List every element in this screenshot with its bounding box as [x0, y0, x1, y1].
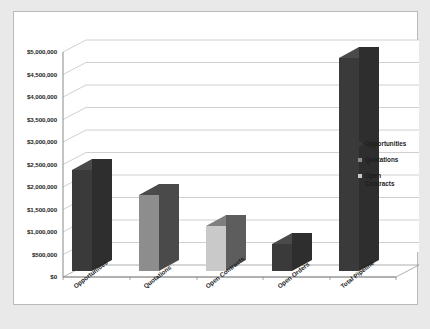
- y-tick-label: $4,000,000: [9, 93, 57, 100]
- y-tick-label: $2,000,000: [9, 183, 57, 190]
- legend-item-open-contracts[interactable]: Open Contracts: [358, 172, 420, 188]
- y-tick-label: $2,500,000: [9, 161, 57, 168]
- legend-label-opportunities: Opportunities: [365, 140, 406, 148]
- y-tick-label: $500,000: [9, 251, 57, 258]
- bar-opportunities: [72, 159, 112, 271]
- y-tick-label: $1,500,000: [9, 206, 57, 213]
- legend-marker-open-contracts: [358, 174, 362, 178]
- y-tick-label: $1,000,000: [9, 228, 57, 235]
- y-tick-label: $4,500,000: [9, 71, 57, 78]
- chart-frame: $5,000,000 $4,500,000 $4,000,000 $3,500,…: [13, 11, 418, 305]
- bar-quotations: [139, 184, 179, 271]
- chart-plot-area: $5,000,000 $4,500,000 $4,000,000 $3,500,…: [14, 12, 417, 304]
- legend-item-quotations[interactable]: Quotations: [358, 156, 420, 164]
- y-tick-label: $3,000,000: [9, 138, 57, 145]
- y-tick-label: $5,000,000: [9, 48, 57, 55]
- legend-label-open-contracts: Open Contracts: [365, 172, 399, 188]
- legend-marker-quotations: [358, 158, 362, 162]
- chart-legend: Opportunities Quotations Open Contracts: [358, 140, 420, 196]
- y-tick-label: $0: [9, 273, 57, 280]
- y-tick-label: $3,500,000: [9, 116, 57, 123]
- legend-label-quotations: Quotations: [365, 156, 398, 164]
- legend-item-opportunities[interactable]: Opportunities: [358, 140, 420, 148]
- legend-marker-opportunities: [358, 142, 362, 146]
